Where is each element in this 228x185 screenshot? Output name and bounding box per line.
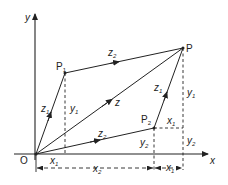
vector-p1p-label: z2 <box>107 47 117 59</box>
arrow-op-icon <box>102 99 112 106</box>
origin-label: O <box>20 155 28 166</box>
y-axis-label: y <box>24 12 31 23</box>
arrow-op2-icon <box>90 140 100 142</box>
vector-op1-label: z1 <box>40 103 49 115</box>
dim-y2-right-label: y2 <box>186 135 196 147</box>
arrow-p2p-icon <box>164 92 167 101</box>
dim-y1-right-label: y1 <box>186 87 195 99</box>
complex-addition-diagram: y x O P1 P P2 z1 z2 z z2 z1 x1 x2 x1 x1 … <box>0 0 228 185</box>
dim-x1-left-label: x1 <box>49 155 58 167</box>
point-p <box>182 47 185 50</box>
point-p2 <box>153 127 156 130</box>
point-p1-label: P1 <box>56 61 67 73</box>
dim-x1-bottom-right-label: x1 <box>165 162 174 174</box>
axes <box>14 14 208 160</box>
vector-p2p-label: z1 <box>153 82 162 94</box>
point-p-label: P <box>186 43 193 54</box>
dim-x2-label: x2 <box>92 163 102 175</box>
dim-y1-left-label: y1 <box>69 103 78 115</box>
point-o <box>34 152 37 155</box>
diagram-svg: y x O P1 P P2 z1 z2 z z2 z1 x1 x2 x1 x1 … <box>0 0 228 185</box>
dim-y2-mid-label: y2 <box>139 137 149 149</box>
dim-x1-upper-right-label: x1 <box>166 115 175 127</box>
point-p2-label: P2 <box>141 114 152 126</box>
x-axis-label: x <box>209 155 216 166</box>
arrow-p1p-icon <box>110 62 119 64</box>
vector-op2-label: z2 <box>97 128 107 140</box>
vector-op-label: z <box>114 97 120 108</box>
